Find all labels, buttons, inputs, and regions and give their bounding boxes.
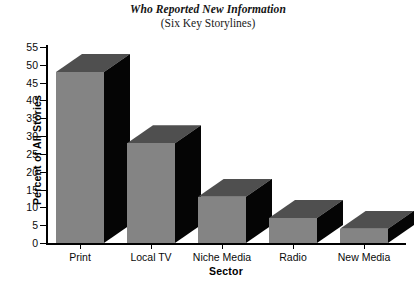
y-tick-mark [40, 243, 46, 244]
chart-figure: Who Reported New Information (Six Key St… [0, 0, 416, 286]
bar-front-face [56, 72, 104, 243]
x-axis-title: Sector [47, 265, 405, 277]
bar-local-tv [127, 125, 201, 243]
bar-niche-media [198, 179, 272, 243]
y-tick-label: 20 [16, 167, 38, 177]
y-tick-mark [40, 154, 46, 155]
y-tick-label: 50 [16, 60, 38, 70]
bar-radio [269, 200, 343, 243]
plot-wrapper: Percent of All Stories 05101520253035404… [0, 0, 416, 286]
bar-front-face [340, 229, 388, 243]
y-tick-label: 25 [16, 149, 38, 159]
y-tick-mark [40, 207, 46, 208]
y-axis-line [46, 45, 48, 244]
y-tick-mark [40, 47, 46, 48]
y-tick-mark [40, 65, 46, 66]
x-tick-mark [222, 244, 223, 249]
x-tick-mark [293, 244, 294, 249]
y-tick-label: 15 [16, 185, 38, 195]
x-tick-mark [80, 244, 81, 249]
x-tick-label-new-media: New Media [319, 251, 409, 263]
bar-print [56, 54, 130, 243]
y-tick-mark [40, 83, 46, 84]
bar-new-media [340, 211, 414, 243]
y-tick-label: 10 [16, 202, 38, 212]
y-tick-mark [40, 172, 46, 173]
y-tick-label: 0 [16, 238, 38, 248]
y-tick-mark [40, 136, 46, 137]
bar-front-face [269, 218, 317, 243]
y-tick-mark [40, 100, 46, 101]
y-tick-mark [40, 225, 46, 226]
y-tick-mark [40, 118, 46, 119]
y-tick-label: 40 [16, 95, 38, 105]
y-tick-label: 55 [16, 42, 38, 52]
bar-front-face [127, 143, 175, 243]
x-axis-line [46, 243, 406, 245]
x-tick-mark [364, 244, 365, 249]
y-tick-label: 35 [16, 113, 38, 123]
y-tick-label: 30 [16, 131, 38, 141]
x-tick-mark [151, 244, 152, 249]
bar-front-face [198, 197, 246, 243]
y-tick-label: 45 [16, 78, 38, 88]
y-tick-label: 5 [16, 220, 38, 230]
y-tick-mark [40, 190, 46, 191]
